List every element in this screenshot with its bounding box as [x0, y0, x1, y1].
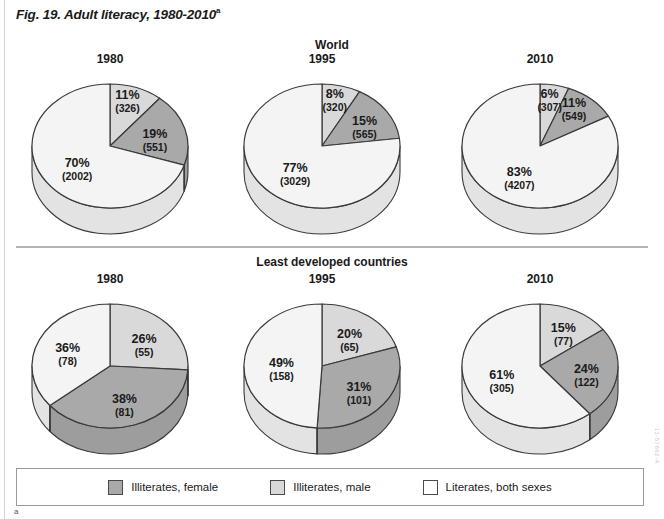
slice-percent-label: 19% [142, 127, 167, 141]
slice-count-label: (101) [347, 394, 372, 406]
pie-year-label: 1995 [222, 52, 422, 66]
legend-swatch-literates-both [423, 480, 438, 495]
slice-count-label: (3029) [280, 175, 310, 187]
slice-percent-label: 83% [507, 165, 532, 179]
pie-panel-world-2010: 20106%(307)11%(549)83%(4207) [440, 52, 640, 250]
slice-percent-label: 70% [65, 156, 90, 170]
legend-swatch-illiterates-male [270, 480, 285, 495]
slice-count-label: (78) [58, 355, 77, 367]
figure-title: Fig. 19. Adult literacy, 1980-2010a [16, 6, 220, 22]
slice-count-label: (551) [143, 141, 168, 153]
slice-count-label: (65) [340, 341, 359, 353]
pie-panel-least-developed-countries-1980: 198026%(55)38%(81)36%(78) [10, 272, 210, 470]
pie-year-label: 1980 [10, 52, 210, 66]
pie-chart-1995: 8%(320)15%(565)77%(3029) [222, 68, 422, 248]
slice-count-label: (305) [490, 382, 515, 394]
pie-year-label: 2010 [440, 272, 640, 286]
pie-panel-least-developed-countries-1995: 199520%(65)31%(101)49%(158) [222, 272, 422, 470]
legend-item-literates-both: Literates, both sexes [423, 480, 552, 495]
slice-count-label: (565) [352, 128, 377, 140]
slice-percent-label: 38% [112, 392, 137, 406]
legend-item-illiterates-female: Illiterates, female [108, 480, 218, 495]
slice-count-label: (326) [115, 102, 140, 114]
slice-count-label: (55) [135, 346, 154, 358]
figure-title-superscript: a [216, 6, 220, 15]
figure-title-text: Fig. 19. Adult literacy, 1980-2010 [16, 7, 216, 22]
pie-year-label: 1995 [222, 272, 422, 286]
pie-chart-2010: 6%(307)11%(549)83%(4207) [440, 68, 640, 248]
legend-label-illiterates-male: Illiterates, male [293, 481, 370, 493]
slice-count-label: (158) [269, 370, 294, 382]
slice-percent-label: 15% [551, 321, 576, 335]
slice-percent-label: 11% [562, 96, 586, 110]
pie-year-label: 2010 [440, 52, 640, 66]
slice-percent-label: 20% [337, 327, 362, 341]
slice-count-label: (77) [554, 335, 573, 347]
pie-chart-1980: 26%(55)38%(81)36%(78) [10, 288, 210, 468]
legend: Illiterates, female Illiterates, male Li… [16, 468, 644, 506]
slice-percent-label: 8% [326, 87, 344, 101]
pie-chart-1980: 11%(326)19%(551)70%(2002) [10, 68, 210, 248]
slice-count-label: (307) [537, 101, 562, 113]
pie-panel-world-1995: 19958%(320)15%(565)77%(3029) [222, 52, 422, 250]
pie-chart-1995: 20%(65)31%(101)49%(158) [222, 288, 422, 468]
slice-count-label: (81) [115, 406, 134, 418]
slice-percent-label: 6% [541, 87, 559, 101]
pie-panel-least-developed-countries-2010: 201015%(77)24%(122)61%(305) [440, 272, 640, 470]
pie-panel-world-1980: 198011%(326)19%(551)70%(2002) [10, 52, 210, 250]
slice-count-label: (2002) [62, 170, 92, 182]
slice-percent-label: 26% [132, 332, 157, 346]
slice-percent-label: 24% [574, 362, 599, 376]
slice-percent-label: 61% [489, 368, 514, 382]
slice-percent-label: 77% [283, 161, 308, 175]
slice-percent-label: 15% [352, 114, 377, 128]
slice-percent-label: 11% [115, 88, 139, 102]
slice-count-label: (320) [323, 101, 348, 113]
slice-percent-label: 49% [269, 356, 294, 370]
footnote-marker: a [14, 507, 18, 516]
side-source-code: 11-57862-A [654, 428, 660, 464]
legend-swatch-illiterates-female [108, 480, 123, 495]
slice-count-label: (549) [562, 110, 587, 122]
slice-percent-label: 31% [346, 380, 371, 394]
slice-count-label: (4207) [504, 179, 534, 191]
slice-count-label: (122) [574, 376, 599, 388]
legend-item-illiterates-male: Illiterates, male [270, 480, 370, 495]
legend-label-illiterates-female: Illiterates, female [131, 481, 218, 493]
legend-label-literates-both: Literates, both sexes [446, 481, 552, 493]
pie-chart-2010: 15%(77)24%(122)61%(305) [440, 288, 640, 468]
section-heading-world: World [0, 38, 664, 52]
slice-percent-label: 36% [55, 341, 80, 355]
section-heading-ldc: Least developed countries [0, 255, 664, 269]
pie-year-label: 1980 [10, 272, 210, 286]
